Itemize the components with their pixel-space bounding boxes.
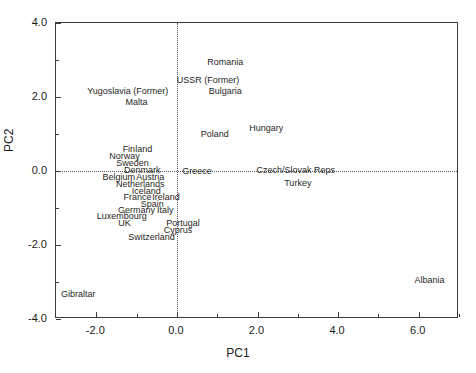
x-tick [419,312,420,317]
y-tick-label: 4.0 [0,16,47,28]
x-tick-label: 2.0 [249,324,264,336]
x-tick-label: 4.0 [329,324,344,336]
data-point-label: Gibraltar [61,289,96,298]
y-tick [56,319,61,320]
x-tick-label: -2.0 [86,324,105,336]
data-point-label: Switzerland [128,232,175,241]
x-tick-minor [459,314,460,317]
x-tick-minor [137,314,138,317]
y-tick-label: 2.0 [0,90,47,102]
y-tick [56,245,61,246]
data-point-label: Romania [207,57,243,66]
y-tick-label: 0.0 [0,164,47,176]
data-point-label: Poland [201,130,229,139]
x-tick-minor [217,314,218,317]
y-tick [56,171,61,172]
data-point-label: Turkey [284,178,311,187]
y-tick [56,23,61,24]
x-tick-minor [378,314,379,317]
pca-scatter-figure: RomaniaUSSR (Former)BulgariaYugoslavia (… [0,0,476,373]
data-point-label: Italy [157,205,174,214]
x-tick [258,312,259,317]
x-tick [177,312,178,317]
x-tick-label: 6.0 [410,324,425,336]
x-axis-title: PC1 [0,346,476,360]
vertical-zero-reference-line [177,23,178,317]
data-point-label: Bulgaria [209,87,242,96]
data-point-label: Greece [182,167,212,176]
y-tick-minor [56,60,59,61]
y-tick-label: -4.0 [0,312,47,324]
x-tick-label: 0.0 [168,324,183,336]
x-tick-minor [298,314,299,317]
plot-area: RomaniaUSSR (Former)BulgariaYugoslavia (… [55,22,458,318]
data-point-label: Albania [415,275,445,284]
y-axis-title: PC2 [2,129,16,152]
y-tick-minor [56,208,59,209]
data-point-label: Malta [126,97,148,106]
y-tick-minor [56,134,59,135]
data-point-label: UK [118,218,131,227]
x-tick [338,312,339,317]
data-point-label: Yugoslavia (Former) [87,87,168,96]
data-point-label: Hungary [249,124,283,133]
x-tick [96,312,97,317]
data-point-label: USSR (Former) [177,75,240,84]
y-tick-minor [56,282,59,283]
y-tick [56,97,61,98]
data-point-label: Czech/Slovak Reps [257,165,336,174]
y-tick-label: -2.0 [0,238,47,250]
